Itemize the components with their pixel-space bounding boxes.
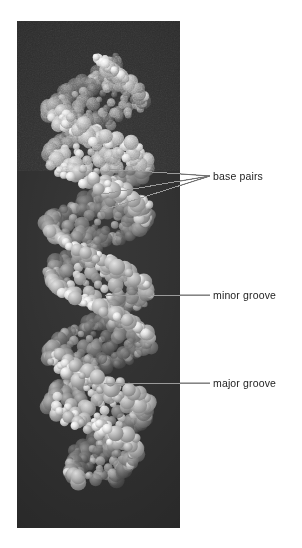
- atom-sphere: [106, 377, 116, 387]
- callout-label-base-pairs: base pairs: [213, 170, 263, 182]
- atom-sphere: [106, 293, 113, 300]
- atom-sphere: [93, 183, 105, 195]
- dna-photo-panel: [17, 21, 180, 528]
- atom-sphere: [113, 312, 122, 321]
- atom-sphere: [122, 154, 131, 163]
- atom-sphere: [113, 449, 121, 457]
- atom-sphere: [66, 113, 75, 122]
- atom-sphere: [79, 246, 92, 259]
- atom-sphere: [123, 107, 132, 116]
- figure-root: base pairs minor groove major groove: [0, 0, 302, 548]
- atom-sphere: [78, 331, 84, 337]
- atom-sphere: [107, 469, 117, 479]
- atom-sphere: [113, 360, 120, 367]
- atom-sphere: [95, 322, 104, 331]
- atom-sphere: [79, 372, 86, 379]
- atom-sphere: [104, 187, 113, 196]
- atom-sphere: [88, 172, 98, 182]
- atom-sphere: [100, 406, 110, 416]
- atom-sphere: [93, 54, 100, 61]
- atom-sphere: [100, 58, 110, 68]
- atom-sphere: [86, 471, 93, 478]
- atom-sphere: [90, 369, 105, 384]
- atom-sphere: [53, 392, 63, 402]
- atom-sphere: [78, 179, 88, 189]
- atom-sphere: [76, 116, 91, 131]
- atom-sphere: [71, 469, 86, 484]
- callout-label-major-groove: major groove: [213, 377, 276, 389]
- leader-line-outer-base-pairs-1: [180, 176, 210, 181]
- atom-sphere: [96, 97, 102, 103]
- atom-sphere: [111, 330, 125, 344]
- atom-sphere: [92, 255, 100, 263]
- atom-sphere: [84, 321, 95, 332]
- atom-sphere: [55, 407, 63, 415]
- atom-sphere: [102, 424, 112, 434]
- atom-sphere: [74, 273, 86, 285]
- atom-sphere: [98, 307, 108, 317]
- atom-sphere: [124, 442, 133, 451]
- leader-line-outer-base-pairs-0: [180, 174, 210, 176]
- atom-sphere: [95, 420, 103, 428]
- atom-sphere: [107, 98, 116, 107]
- atom-sphere: [101, 226, 110, 235]
- atom-sphere: [43, 225, 56, 238]
- atom-sphere: [122, 383, 136, 397]
- atom-sphere: [95, 456, 105, 466]
- atom-sphere: [94, 281, 102, 289]
- atom-sphere: [46, 160, 56, 170]
- atom-sphere: [81, 300, 88, 307]
- atom-sphere: [79, 165, 87, 173]
- atom-sphere: [121, 314, 133, 326]
- atom-sphere: [68, 291, 82, 305]
- callout-label-minor-groove: minor groove: [213, 289, 276, 301]
- atom-sphere: [71, 422, 79, 430]
- atom-sphere: [47, 358, 54, 365]
- atom-sphere: [104, 180, 111, 187]
- atom-sphere: [124, 135, 139, 150]
- atom-sphere: [66, 172, 75, 181]
- atom-sphere: [125, 269, 134, 278]
- atom-sphere-group: [38, 53, 159, 491]
- atom-sphere: [98, 129, 113, 144]
- atom-sphere: [88, 137, 98, 147]
- atom-sphere: [111, 221, 119, 229]
- atom-sphere: [109, 108, 119, 118]
- atom-sphere: [110, 66, 117, 73]
- atom-sphere: [83, 425, 92, 434]
- atom-sphere: [86, 342, 101, 357]
- atom-sphere: [68, 360, 81, 373]
- atom-sphere: [94, 218, 101, 225]
- atom-sphere: [96, 465, 103, 472]
- atom-sphere: [82, 156, 92, 166]
- leader-line-outer-base-pairs-2: [180, 176, 210, 186]
- dna-double-helix-model: [17, 21, 180, 528]
- atom-sphere: [109, 259, 126, 276]
- atom-sphere: [59, 264, 73, 278]
- atom-sphere: [73, 143, 80, 150]
